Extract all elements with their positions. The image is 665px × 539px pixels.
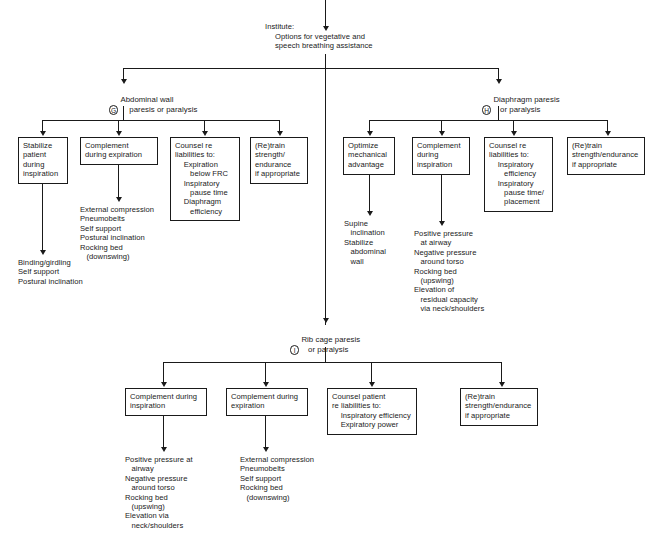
i-branch1-arrow xyxy=(161,382,167,387)
i-box-complement-expiration[interactable]: Complement during expiration xyxy=(226,388,308,416)
g-box-complement-expiration[interactable]: Complement during expiration xyxy=(80,137,158,165)
gh-split-bar xyxy=(123,68,498,69)
g-complement-expiration-outcomes: External compression Pneumobelts Self su… xyxy=(80,205,154,261)
i-branch1-line xyxy=(163,362,164,384)
node-i-badge: I xyxy=(290,345,300,355)
main-trunk-arrow-to-i xyxy=(323,318,329,323)
g-stabilize-outcomes: Binding/girdling Self support Postural i… xyxy=(18,258,83,286)
flowchart-canvas: Institute: Options for vegetative and sp… xyxy=(0,0,665,539)
h-branch2-arrow xyxy=(439,131,445,136)
node-g-badge: G xyxy=(109,105,119,115)
g-down-line xyxy=(123,106,124,120)
i-complement-inspiration-outcome-line xyxy=(163,416,164,449)
g-box-counsel-liabilities[interactable]: Counsel re liabilities to: Expiration be… xyxy=(170,137,240,221)
h-branch1-arrow xyxy=(367,131,373,136)
h-fan-bar xyxy=(369,120,607,121)
i-branch2-line xyxy=(265,362,266,384)
institute-title: Options for vegetative and speech breath… xyxy=(275,32,373,51)
g-branch3-arrow xyxy=(202,131,208,136)
h-down-line xyxy=(498,106,499,120)
h-branch4-arrow xyxy=(605,131,611,136)
h-box-retrain-strength[interactable]: (Re)train strength/endurance if appropri… xyxy=(567,137,645,175)
i-branch4-line xyxy=(501,362,502,384)
i-branch4-arrow xyxy=(499,382,505,387)
node-h-badge: H xyxy=(482,105,492,115)
node-g: GAbdominal wall paresis or paralysis xyxy=(100,85,197,125)
node-i: IRib cage paresis or paralysis xyxy=(281,325,360,365)
g-complement-outcome-line xyxy=(118,165,119,199)
i-complement-inspiration-outcome-arrow xyxy=(161,447,167,452)
main-trunk-line xyxy=(325,54,326,325)
g-fan-bar xyxy=(42,120,279,121)
i-box-complement-inspiration[interactable]: Complement during inspiration xyxy=(125,388,207,416)
h-complement-inspiration-outcomes: Positive pressure at airway Negative pre… xyxy=(414,229,484,314)
h-box-optimize-mechanical[interactable]: Optimize mechanical advantage xyxy=(343,137,395,175)
g-branch4-arrow xyxy=(277,131,283,136)
h-stem-arrow xyxy=(496,79,502,84)
h-branch3-arrow xyxy=(511,131,517,136)
g-stem-arrow xyxy=(121,79,127,84)
top-inflow-line xyxy=(325,0,326,27)
i-box-counsel-patient[interactable]: Counsel patient re liabilities to: Inspi… xyxy=(327,388,417,435)
h-box-complement-inspiration[interactable]: Complement during inspiration xyxy=(412,137,470,175)
i-complement-expiration-outcome-arrow xyxy=(263,447,269,452)
i-branch3-arrow xyxy=(369,382,375,387)
g-box-retrain-strength[interactable]: (Re)train strength/ endurance if appropr… xyxy=(250,137,308,184)
i-box-retrain-strength[interactable]: (Re)train strength/endurance if appropri… xyxy=(460,388,538,426)
i-fan-bar xyxy=(163,362,501,363)
h-complement-outcome-arrow xyxy=(439,221,445,226)
h-optimize-outcome-line xyxy=(369,175,370,213)
g-box-stabilize-patient[interactable]: Stabilize patient during inspiration xyxy=(18,137,68,184)
top-inflow-arrow xyxy=(323,26,329,31)
i-down-line xyxy=(325,347,326,362)
g-stabilize-outcome-arrow xyxy=(40,250,46,255)
g-branch2-arrow xyxy=(116,131,122,136)
node-h-label: Diaphragm paresis or paralysis xyxy=(493,95,559,115)
h-complement-outcome-line xyxy=(441,175,442,223)
node-g-label: Abdominal wall paresis or paralysis xyxy=(120,95,197,115)
institute-label: Institute: xyxy=(265,22,294,31)
g-complement-outcome-arrow xyxy=(116,197,122,202)
i-branch2-arrow xyxy=(263,382,269,387)
node-i-label: Rib cage paresis or paralysis xyxy=(301,335,360,355)
g-stabilize-outcome-line xyxy=(42,184,43,252)
i-complement-inspiration-outcomes: Positive pressure at airway Negative pre… xyxy=(125,455,193,530)
i-complement-expiration-outcomes: External compression Pneumobelts Self su… xyxy=(240,455,314,502)
node-h: HDiaphragm paresis or paralysis xyxy=(473,85,560,125)
h-box-counsel-liabilities[interactable]: Counsel re liabilities to: Inspiratory e… xyxy=(484,137,553,212)
i-branch3-line xyxy=(371,362,372,384)
i-complement-expiration-outcome-line xyxy=(265,416,266,449)
g-branch1-arrow xyxy=(40,131,46,136)
h-optimize-outcome-arrow xyxy=(367,211,373,216)
h-optimize-mechanical-outcomes: Supine inclination Stabilize abdominal w… xyxy=(344,219,386,266)
